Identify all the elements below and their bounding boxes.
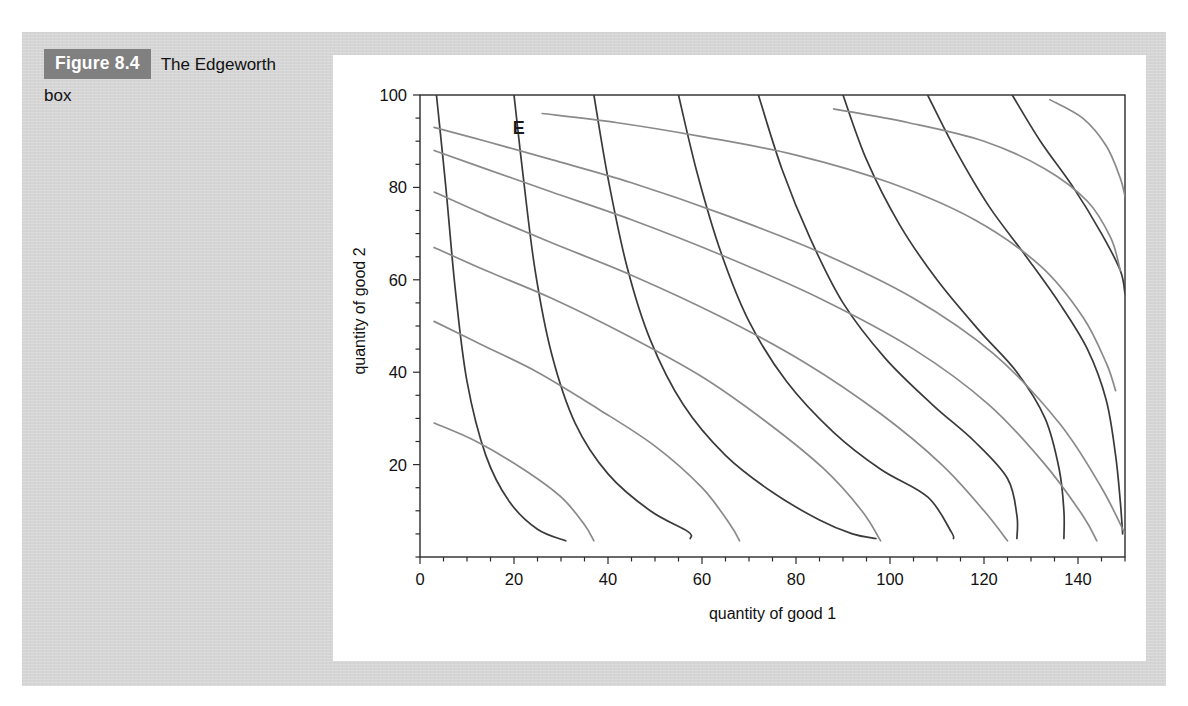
indifference-curve	[434, 247, 880, 540]
indifference-curve	[434, 150, 1097, 540]
x-tick-label: 60	[693, 570, 711, 588]
y-tick-label: 40	[389, 363, 407, 381]
edgeworth-box-chart: 02040608010012014020406080100 E quantity…	[333, 55, 1146, 661]
indifference-curve	[542, 113, 1115, 390]
y-tick-label: 60	[389, 271, 407, 289]
x-tick-label: 0	[415, 570, 424, 588]
indifference-curve	[434, 321, 739, 540]
y-tick-label: 80	[389, 178, 407, 196]
indifference-curve	[928, 95, 1123, 534]
indifference-curve	[834, 109, 1121, 271]
indifference-curve	[436, 95, 565, 541]
x-tick-label: 140	[1064, 570, 1092, 588]
indifference-curve	[1012, 95, 1125, 294]
figure-title-line1: The Edgeworth	[161, 55, 276, 74]
indifference-curve	[594, 95, 876, 539]
indifference-curve	[758, 95, 1017, 539]
figure-caption: Figure 8.4The Edgeworth box	[44, 49, 319, 108]
x-tick-label: 80	[787, 570, 805, 588]
y-tick-label: 100	[379, 86, 407, 104]
y-tick-label: 20	[389, 456, 407, 474]
y-axis-label: quantity of good 2	[351, 247, 368, 374]
x-tick-label: 120	[970, 570, 998, 588]
figure-white-card: 02040608010012014020406080100 E quantity…	[333, 55, 1146, 661]
figure-number-tag: Figure 8.4	[44, 49, 151, 79]
axis-ticks	[413, 95, 1125, 564]
indifference-curve	[1050, 100, 1125, 197]
x-axis-label: quantity of good 1	[709, 605, 836, 622]
x-tick-label: 40	[599, 570, 617, 588]
endowment-point-label: E	[513, 118, 525, 138]
indifference-curve	[434, 423, 594, 541]
indifference-curve	[434, 127, 1125, 534]
indifference-curve	[434, 192, 1007, 541]
indifference-curve	[514, 95, 691, 539]
plot-frame	[420, 95, 1125, 557]
x-tick-label: 20	[505, 570, 523, 588]
figure-page: Figure 8.4The Edgeworth box 020406080100…	[0, 0, 1188, 706]
indifference-curves	[434, 95, 1125, 541]
x-tick-label: 100	[876, 570, 904, 588]
chart-annotations: E	[513, 118, 525, 138]
figure-title-line2: box	[44, 83, 319, 108]
